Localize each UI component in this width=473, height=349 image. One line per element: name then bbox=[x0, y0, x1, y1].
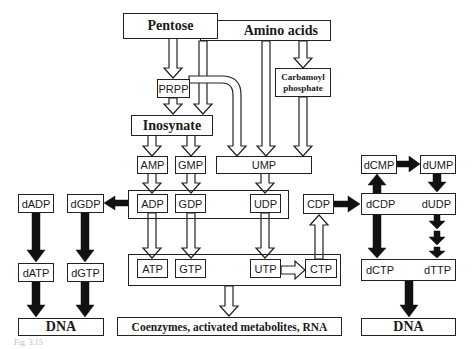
dgtp-label: dGTP bbox=[71, 267, 100, 279]
dttp-label: dTTP bbox=[424, 264, 451, 276]
atp-box: ATP bbox=[137, 259, 168, 278]
amp-box: AMP bbox=[137, 156, 168, 174]
dgdp-box: dGDP bbox=[67, 194, 104, 213]
gmp-box: GMP bbox=[175, 156, 206, 174]
datp-label: dATP bbox=[23, 267, 50, 279]
arrow-dntp-to-dna bbox=[400, 281, 418, 317]
dcmp-label: dCMP bbox=[364, 159, 395, 171]
adp-label: ADP bbox=[141, 198, 164, 210]
pentose-label: Pentose bbox=[148, 18, 194, 34]
inosynate-box: Inosynate bbox=[131, 115, 213, 136]
gmp-label: GMP bbox=[178, 159, 203, 171]
ctp-label: CTP bbox=[310, 263, 332, 275]
dump-label: dUMP bbox=[423, 159, 454, 171]
utp-box: UTP bbox=[250, 259, 281, 278]
arrow-inosynate-to-amp bbox=[143, 135, 161, 156]
gtp-box: GTP bbox=[175, 259, 206, 278]
dadp-label: dADP bbox=[22, 198, 51, 210]
gdp-label: GDP bbox=[179, 198, 203, 210]
cdp-box: CDP bbox=[303, 194, 334, 214]
dctp-label: dCTP bbox=[366, 264, 394, 276]
arrow-gdp-to-gtp bbox=[182, 213, 200, 258]
adp-box: ADP bbox=[137, 194, 168, 213]
dadp-box: dADP bbox=[18, 194, 54, 213]
dna-right-box: DNA bbox=[361, 318, 456, 336]
dcmp-box: dCMP bbox=[361, 155, 397, 174]
arrow-ntp-to-coenzymes bbox=[220, 286, 238, 316]
amino-acids-label: Amino acids bbox=[244, 23, 318, 39]
datp-box: dATP bbox=[18, 263, 54, 282]
ctp-box: CTP bbox=[305, 259, 337, 278]
arrow-pentose-to-prpp bbox=[164, 38, 182, 78]
dgdp-label: dGDP bbox=[71, 198, 101, 210]
arrow-dudp-to-dttp-step3 bbox=[429, 247, 445, 258]
arrow-cdp-to-dcdp bbox=[334, 196, 360, 212]
prpp-label: PRPP bbox=[159, 83, 189, 95]
arrow-dcmp-to-dump bbox=[396, 156, 420, 172]
arrow-udp-to-utp bbox=[256, 213, 274, 258]
arrow-dadp-to-datp bbox=[27, 213, 45, 262]
dctp-dttp-box: dCTP dTTP bbox=[361, 259, 456, 281]
dcdp-dudp-box: dCDP dUDP bbox=[361, 193, 456, 215]
figure-caption: Fig. 3.15 bbox=[14, 338, 43, 347]
dna-left-label: DNA bbox=[46, 319, 76, 335]
amp-label: AMP bbox=[141, 159, 165, 171]
cdp-label: CDP bbox=[307, 198, 330, 210]
dgtp-box: dGTP bbox=[67, 263, 104, 282]
dudp-label: dUDP bbox=[422, 198, 451, 210]
carbamoyl-phosphate-box: Carbamoyl phosphate bbox=[275, 68, 331, 97]
nucleotide-pathway-diagram: Amino acids Pentose Carbamoyl phosphate … bbox=[0, 0, 473, 349]
dna-left-box: DNA bbox=[18, 318, 104, 336]
dna-right-label: DNA bbox=[393, 319, 423, 335]
udp-box: UDP bbox=[250, 194, 281, 213]
atp-label: ATP bbox=[142, 263, 163, 275]
gdp-box: GDP bbox=[175, 194, 206, 213]
arrow-dudp-to-dttp-step2 bbox=[429, 231, 445, 245]
carbamoyl-label-line1: Carbamoyl bbox=[281, 72, 325, 83]
arrow-aminoacids-to-ump bbox=[257, 41, 275, 156]
arrow-ctp-to-cdp bbox=[310, 215, 328, 259]
gtp-label: GTP bbox=[179, 263, 202, 275]
prpp-box: PRPP bbox=[157, 79, 190, 98]
arrow-adp-to-atp bbox=[143, 213, 161, 258]
pentose-box: Pentose bbox=[123, 13, 218, 39]
arrow-datp-to-dna bbox=[27, 282, 45, 317]
ump-box: UMP bbox=[216, 156, 312, 174]
arrow-dump-to-dudp bbox=[428, 174, 446, 192]
arrow-adp-to-dgdp bbox=[104, 196, 128, 210]
arrow-carbamoyl-to-ump bbox=[294, 97, 312, 156]
amino-acids-box: Amino acids bbox=[200, 20, 331, 41]
carbamoyl-label-line2: phosphate bbox=[283, 83, 323, 94]
arrow-dcdp-to-dctp bbox=[368, 215, 386, 258]
dcdp-label: dCDP bbox=[366, 198, 395, 210]
arrow-dgtp-to-dna bbox=[76, 282, 94, 317]
arrow-dgdp-to-dgtp bbox=[76, 213, 94, 262]
rna-products-label: Coenzymes, activated metabolites, RNA bbox=[132, 321, 328, 333]
arrow-dudp-to-dttp-step1 bbox=[429, 215, 445, 229]
dump-box: dUMP bbox=[420, 155, 456, 174]
utp-label: UTP bbox=[255, 263, 277, 275]
arrow-layer bbox=[0, 0, 473, 349]
arrow-inosynate-to-gmp bbox=[182, 135, 200, 156]
arrow-prpp-to-inosynate bbox=[164, 98, 182, 114]
arrow-aminoacids-to-carbamoyl bbox=[294, 41, 312, 68]
udp-label: UDP bbox=[254, 198, 277, 210]
arrow-dcdp-to-dcmp bbox=[368, 174, 386, 193]
rna-products-box: Coenzymes, activated metabolites, RNA bbox=[117, 317, 342, 336]
inosynate-label: Inosynate bbox=[143, 118, 201, 134]
ump-label: UMP bbox=[252, 159, 276, 171]
